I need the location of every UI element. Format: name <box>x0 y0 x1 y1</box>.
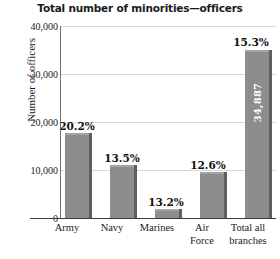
data-label-marines: 13.2% <box>141 196 191 208</box>
bar-marines-bevel <box>155 209 179 211</box>
data-label-total: 15.3% <box>226 36 276 48</box>
data-label-navy: 13.5% <box>98 152 146 164</box>
y-tick-20000: 20,000 <box>2 117 58 128</box>
x-tick-total-all-branches: Total all branches <box>218 221 278 247</box>
bar-air-force[interactable] <box>200 172 227 218</box>
y-tick-10000: 10,000 <box>2 165 58 176</box>
gridline-30000 <box>61 74 276 75</box>
x-tick-total-line1: Total all <box>218 221 278 234</box>
y-tick-30000: 30,000 <box>2 69 58 80</box>
bar-total-bevel <box>245 50 269 52</box>
bar-total-all-branches[interactable]: 34,887 <box>245 50 272 218</box>
x-tick-total-line2: branches <box>218 234 278 247</box>
y-tick-40000: 40,000 <box>2 21 58 32</box>
bar-army-bevel <box>65 133 89 135</box>
bar-navy-bevel <box>110 165 134 167</box>
x-axis-line <box>30 218 276 219</box>
bar-chart: Total number of minorities—officers Numb… <box>0 0 280 259</box>
bar-air-force-bevel <box>200 172 224 174</box>
bar-total-value-label: 34,887 <box>252 77 263 129</box>
data-label-air-force: 12.6% <box>183 159 233 171</box>
gridline-40000 <box>61 26 276 27</box>
y-axis-line <box>60 26 61 219</box>
bar-navy[interactable] <box>110 165 137 218</box>
bar-marines[interactable] <box>155 209 182 218</box>
bar-army[interactable] <box>65 133 92 218</box>
gridline-10000 <box>61 170 276 171</box>
